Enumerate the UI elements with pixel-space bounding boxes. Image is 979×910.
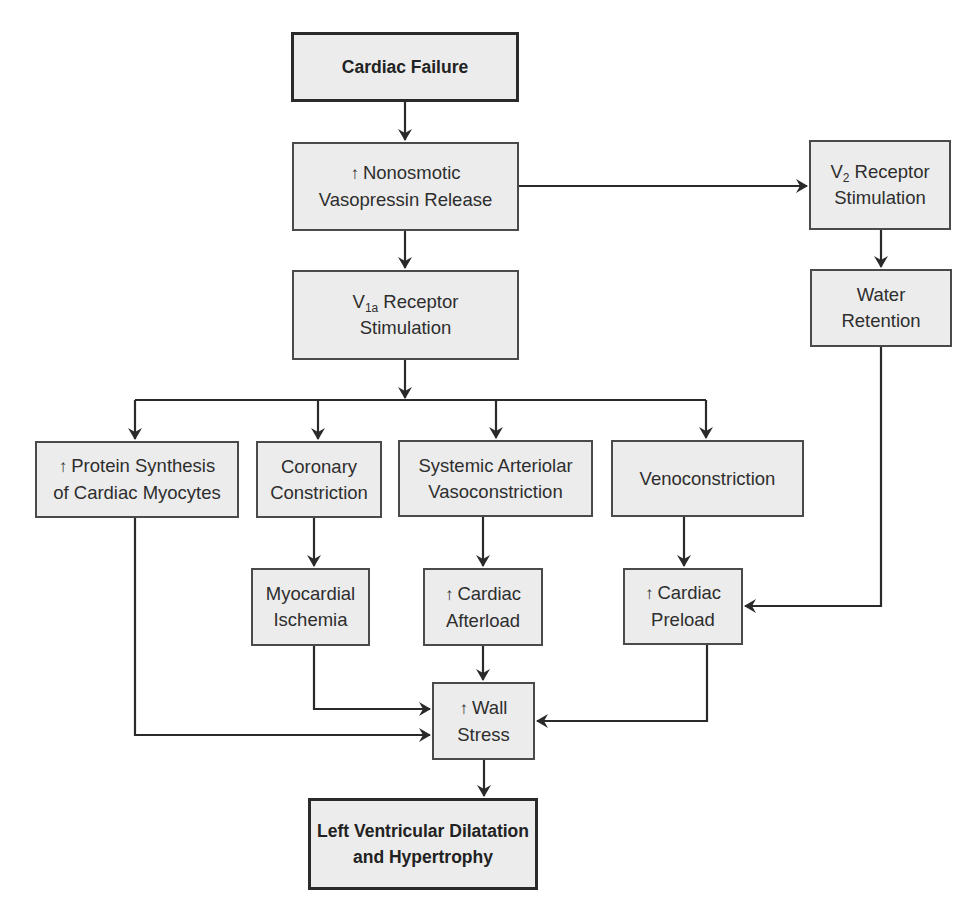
node-label: Receptor [378,291,458,312]
node-label: Coronary [270,454,368,480]
node-cardiac-afterload: ↑Cardiac Afterload [423,568,543,646]
node-label: Afterload [445,608,521,634]
node-label: Stimulation [353,315,459,341]
node-label: Cardiac [457,583,521,604]
node-myocardial-ischemia: Myocardial Ischemia [251,568,370,646]
node-label: Vasopressin Release [319,187,492,213]
arrow-ischemia-to-wall [314,646,430,709]
node-label: and Hypertrophy [317,844,529,870]
subscript: 1a [365,301,378,315]
node-label: Receptor [849,161,929,182]
node-label: V [830,161,842,182]
node-label: Vasoconstriction [418,479,572,505]
increase-arrow-icon: ↑ [460,699,469,718]
increase-arrow-icon: ↑ [645,584,654,603]
node-label: Protein Synthesis [71,455,215,476]
node-label: Venoconstriction [640,466,776,492]
node-v1a-receptor: V1a Receptor Stimulation [292,270,519,360]
increase-arrow-icon: ↑ [59,457,68,476]
node-label: Stress [457,722,509,748]
increase-arrow-icon: ↑ [350,164,359,183]
node-label: Nonosmotic [363,162,461,183]
node-label: Left Ventricular Dilatation [317,818,529,844]
node-cardiac-preload: ↑Cardiac Preload [623,568,743,645]
node-vasopressin-release: ↑Nonosmotic Vasopressin Release [292,142,519,231]
node-coronary-constriction: Coronary Constriction [256,441,382,518]
node-lv-dilatation-hypertrophy: Left Ventricular Dilatation and Hypertro… [308,798,538,890]
node-label: of Cardiac Myocytes [53,480,221,506]
node-venoconstriction: Venoconstriction [611,440,804,517]
node-label: Cardiac [657,582,721,603]
node-label: Wall [472,697,507,718]
node-protein-synthesis: ↑Protein Synthesis of Cardiac Myocytes [35,441,239,518]
node-label: Constriction [270,480,368,506]
node-water-retention: Water Retention [810,269,952,347]
node-v2-receptor: V2 Receptor Stimulation [809,140,951,230]
node-label: Myocardial [266,581,355,607]
node-label: Retention [841,308,920,334]
arrow-preload-to-wall [537,645,707,721]
node-label: Ischemia [266,607,355,633]
increase-arrow-icon: ↑ [445,585,454,604]
node-label: Preload [645,607,721,633]
node-systemic-vasoconstriction: Systemic Arteriolar Vasoconstriction [398,440,593,517]
node-label: Systemic Arteriolar [418,453,572,479]
node-wall-stress: ↑Wall Stress [432,682,535,760]
node-cardiac-failure: Cardiac Failure [291,32,519,102]
node-label: Cardiac Failure [342,54,468,80]
node-label: V [353,291,365,312]
node-label: Water [841,282,920,308]
node-label: Stimulation [830,185,929,211]
